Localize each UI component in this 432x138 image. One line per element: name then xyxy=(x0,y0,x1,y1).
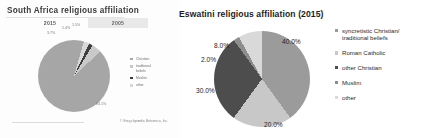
legend-item-christian: Christian xyxy=(130,57,178,61)
legend-swatch-icon xyxy=(335,66,338,69)
legend-label: traditional beliefs xyxy=(136,64,178,72)
legend-label: Muslim xyxy=(136,76,178,80)
legend-swatch-icon xyxy=(335,96,338,99)
south-africa-chart-panel: South Africa religious affiliation 2015 … xyxy=(0,0,180,138)
legend-label: Christian xyxy=(136,57,178,61)
legend-item-muslim: Muslim xyxy=(130,76,178,80)
legend-label: other xyxy=(136,83,178,87)
legend-item-roman-catholic: Roman Catholic xyxy=(335,49,431,56)
pie-label-muslim: 2.0% xyxy=(201,56,216,63)
legend-swatch-icon xyxy=(335,29,338,32)
legend-item-muslim: Muslim xyxy=(335,79,431,86)
legend-item-traditional-beliefs: traditional beliefs xyxy=(130,64,178,72)
legend-item-other: other xyxy=(335,94,431,101)
south-africa-legend: Christian traditional beliefs Muslim oth… xyxy=(130,57,178,91)
eswatini-legend: syncretistic Christian/ traditional beli… xyxy=(335,27,431,109)
eswatini-pie-wrap: 40.0% 20.0% 30.0% 2.0% 8.0% xyxy=(204,25,316,137)
britannica-pie-chart-figure: South Africa religious affiliation 2015 … xyxy=(0,0,432,138)
pie-label-other-christian: 30.0% xyxy=(196,87,215,94)
pie-label-christian: 83.1% xyxy=(96,102,106,106)
legend-label: other xyxy=(342,94,431,101)
south-africa-chart-title: South Africa religious affiliation xyxy=(7,6,139,15)
legend-swatch-icon xyxy=(130,58,133,61)
pie-label-muslim: 1.4% xyxy=(62,26,70,30)
legend-swatch-icon xyxy=(335,81,338,84)
legend-item-other-christian: other Christian xyxy=(335,64,431,71)
pie-label-syncretistic: 40.0% xyxy=(282,38,301,45)
pie-label-traditional: 3.7% xyxy=(47,31,55,35)
legend-swatch-icon xyxy=(130,77,133,80)
legend-swatch-icon xyxy=(130,65,133,68)
pie-label-other: 8.0% xyxy=(214,42,229,49)
legend-item-syncretistic-christian: syncretistic Christian/ traditional beli… xyxy=(335,27,431,42)
legend-swatch-icon xyxy=(335,51,338,54)
year-selector[interactable]: 2015 2005 xyxy=(30,18,148,28)
year-tab-2005[interactable]: 2005 xyxy=(88,18,148,28)
pie-label-other: 1.5% xyxy=(72,23,80,27)
pie-label-roman-catholic: 20.0% xyxy=(264,121,283,128)
britannica-credit: © Encyclopædia Britannica, Inc. xyxy=(120,119,168,123)
legend-label: syncretistic Christian/ traditional beli… xyxy=(342,27,431,42)
legend-label: Roman Catholic xyxy=(342,49,431,56)
legend-item-other: other xyxy=(130,83,178,87)
eswatini-chart-title: Eswatini religious affiliation (2015) xyxy=(179,9,431,19)
legend-label: other Christian xyxy=(342,64,431,71)
eswatini-chart-panel: Eswatini religious affiliation (2015) 40… xyxy=(180,0,432,138)
legend-label: Muslim xyxy=(342,79,431,86)
footer-divider xyxy=(12,122,84,123)
legend-swatch-icon xyxy=(130,84,133,87)
